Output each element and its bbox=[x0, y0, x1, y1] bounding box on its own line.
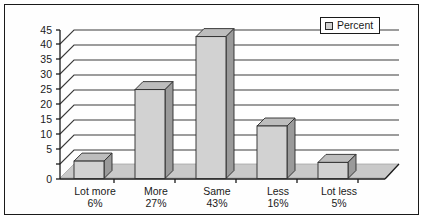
bar-more[interactable] bbox=[135, 82, 173, 179]
x-category-lot-less: Lot less 5% bbox=[302, 185, 376, 209]
y-tick-label: 5 bbox=[26, 144, 52, 154]
y-tick-label: 45 bbox=[26, 25, 52, 35]
y-tick-label: 10 bbox=[26, 129, 52, 139]
y-tick-label: 40 bbox=[26, 39, 52, 49]
bar-lot-more[interactable] bbox=[74, 153, 112, 178]
y-tick-label: 35 bbox=[26, 54, 52, 64]
chart-legend[interactable]: Percent bbox=[320, 17, 380, 34]
bar-same[interactable] bbox=[196, 29, 234, 179]
bar-less[interactable] bbox=[257, 118, 295, 179]
y-tick-label: 30 bbox=[26, 69, 52, 79]
category-value: 5% bbox=[302, 197, 376, 209]
bar-lot-less[interactable] bbox=[318, 154, 356, 178]
y-tick-label: 25 bbox=[26, 84, 52, 94]
legend-label: Percent bbox=[337, 20, 373, 31]
y-tick-label: 0 bbox=[26, 174, 52, 184]
y-tick-label: 15 bbox=[26, 114, 52, 124]
legend-swatch-icon bbox=[325, 22, 333, 30]
y-tick-label: 20 bbox=[26, 99, 52, 109]
y-axis bbox=[56, 30, 60, 179]
category-name: Lot less bbox=[302, 185, 376, 197]
